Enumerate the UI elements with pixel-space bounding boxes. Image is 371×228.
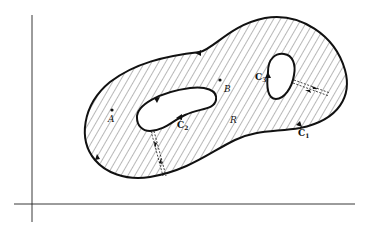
point-a-dot (110, 108, 113, 111)
diagram-canvas: A B R C1 C2 C3 (0, 0, 371, 228)
curve-c1-label: C1 (298, 128, 309, 139)
region-r-label: R (229, 115, 237, 125)
point-b-label: B (223, 84, 231, 94)
point-a-label: A (107, 114, 115, 124)
point-b-dot (218, 78, 221, 81)
